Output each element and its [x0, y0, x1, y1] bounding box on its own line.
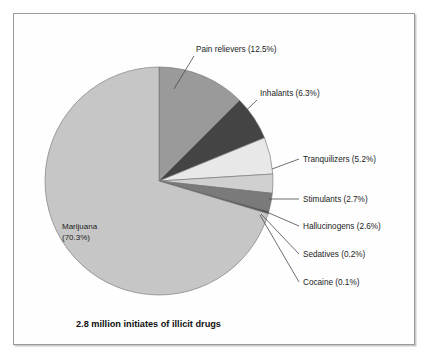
pie-chart-plot-area: Pain relievers (12.5%) Inhalants (6.3%) … — [14, 14, 416, 346]
label-stimulants: Stimulants (2.7%) — [303, 195, 368, 204]
label-cocaine: Cocaine (0.1%) — [303, 278, 360, 287]
label-sedatives: Sedatives (0.2%) — [303, 250, 366, 259]
label-marijuana-line2: (70.3%) — [62, 233, 90, 242]
pie-slices-group — [45, 67, 273, 295]
leader-line-hallucinogens — [262, 210, 299, 226]
leader-line-cocaine — [260, 215, 299, 282]
leader-line-sedatives — [261, 214, 299, 254]
leader-line-tranquilizers — [272, 159, 299, 169]
label-tranquilizers: Tranquilizers (5.2%) — [303, 155, 376, 164]
label-hallucinogens: Hallucinogens (2.6%) — [303, 222, 381, 231]
pie-chart-svg: Pain relievers (12.5%) Inhalants (6.3%) … — [14, 14, 416, 346]
chart-caption: 2.8 million initiates of illicit drugs — [76, 319, 221, 329]
label-inhalants: Inhalants (6.3%) — [260, 89, 320, 98]
label-marijuana-line1: Marijuana — [62, 222, 98, 231]
label-pain-relievers: Pain relievers (12.5%) — [196, 45, 277, 54]
chart-figure-frame: Pain relievers (12.5%) Inhalants (6.3%) … — [13, 13, 415, 345]
